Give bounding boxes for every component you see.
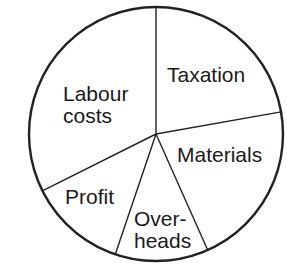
slice-label-profit: Profit [65, 185, 114, 208]
pie-chart: TaxationMaterialsOver-headsProfitLabourc… [0, 0, 287, 268]
pie-chart-canvas: TaxationMaterialsOver-headsProfitLabourc… [0, 0, 287, 268]
slice-label-taxation: Taxation [167, 63, 245, 86]
slice-label-line: Profit [65, 185, 114, 208]
slice-label-line: Materials [177, 143, 262, 166]
slice-label-line: Over- [134, 207, 187, 230]
slice-label-line: Labour [63, 82, 128, 105]
slice-label-line: Taxation [167, 63, 245, 86]
slice-label-line: heads [134, 229, 191, 252]
slice-label-materials: Materials [177, 143, 262, 166]
slice-label-overheads: Over-heads [134, 207, 191, 252]
slice-label-line: costs [63, 104, 112, 127]
